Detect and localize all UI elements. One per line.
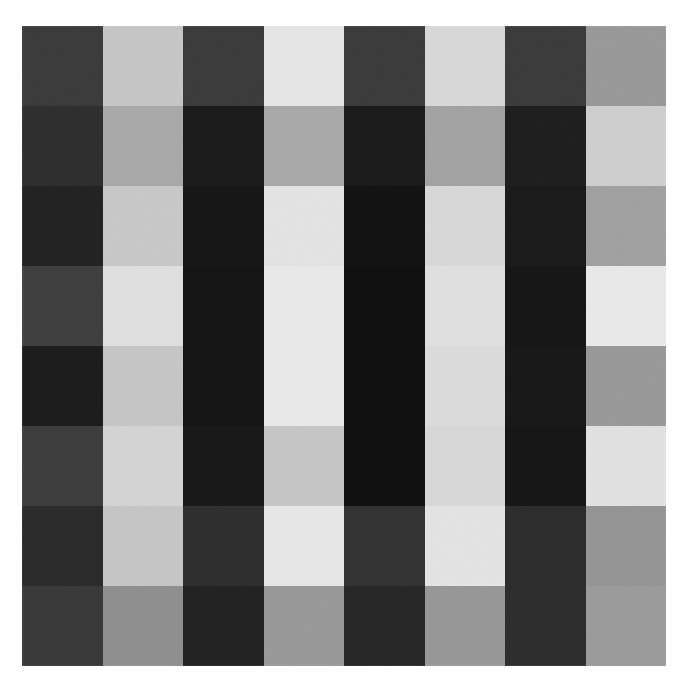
grid-cell [103,186,184,266]
grid-cell [344,186,425,266]
grid-cell [425,106,506,186]
grid-cell [586,266,667,346]
grid-cell [103,26,184,106]
grid-cell [586,426,667,506]
grid-cell [22,26,103,106]
grid-cell [344,506,425,586]
grid-cell [425,586,506,666]
grid-cell [425,186,506,266]
grid-cell [505,586,586,666]
figure-root [0,0,685,691]
grid-cell [22,506,103,586]
grid-cell [103,346,184,426]
grid-cell [22,106,103,186]
grid-cell [505,426,586,506]
grid-cell [425,26,506,106]
grid-cell [22,266,103,346]
grid-cell [183,506,264,586]
grid-cell [586,26,667,106]
grid-cell [586,186,667,266]
grid-cell [344,266,425,346]
grid-cell [22,586,103,666]
grid-cell [505,186,586,266]
grid-cell [183,26,264,106]
grid-cell [586,346,667,426]
grid-cell [103,506,184,586]
grid-cell [505,26,586,106]
grid-cell [183,426,264,506]
grid-cell [425,266,506,346]
grid-cell [344,106,425,186]
grid-cell [264,426,345,506]
grid-cell [264,586,345,666]
grid-cell [505,346,586,426]
grid-cell [425,506,506,586]
checkerboard-grid [22,26,666,666]
grid-cell [22,346,103,426]
grid-cell [586,586,667,666]
grid-cell [22,426,103,506]
grid-cell [264,346,345,426]
grid-cell [586,106,667,186]
grid-cell [425,346,506,426]
figure-caption [22,672,666,688]
grid-cell [103,266,184,346]
grid-cell [22,186,103,266]
grid-cell [344,346,425,426]
grid-cell [425,426,506,506]
grid-cell [505,106,586,186]
grid-cell [505,266,586,346]
grid-cell [103,426,184,506]
grid-cell [264,266,345,346]
grid-cell [264,26,345,106]
grid-cell [505,506,586,586]
grid-cell [183,186,264,266]
grid-cell [183,106,264,186]
grid-cell [344,26,425,106]
grid-cell [264,106,345,186]
grid-cell [344,586,425,666]
grid-cell [586,506,667,586]
grid-cell [103,106,184,186]
grid-cell [264,506,345,586]
grid-cell [183,346,264,426]
grid-cell [103,586,184,666]
grid-cell [344,426,425,506]
grid-cell [183,266,264,346]
grid-cell [183,586,264,666]
grid-cell [264,186,345,266]
